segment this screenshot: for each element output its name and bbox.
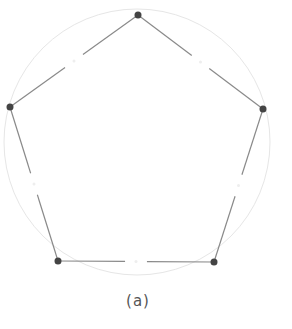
figure-caption: (a) (0, 292, 276, 310)
edge-midpoint-marker (33, 183, 36, 186)
vertex-dot-bottom-left (55, 258, 62, 265)
pentagon-edge (209, 69, 263, 109)
edge-midpoint-marker (237, 184, 240, 187)
pentagon-edge (37, 195, 58, 261)
pentagon-edge (10, 107, 31, 173)
edge-midpoint-marker (199, 61, 202, 64)
vertex-dot-left (7, 104, 14, 111)
pentagon-edge (242, 109, 263, 175)
pentagon-edge (10, 67, 65, 107)
edge-midpoint-marker (135, 260, 138, 263)
vertex-dot-bottom-right (211, 259, 218, 266)
edge-midpoint-marker (73, 60, 76, 63)
vertex-dot-top (135, 12, 142, 19)
vertex-dot-right (260, 106, 267, 113)
pentagon-edge (138, 15, 192, 55)
pentagon-diagram (0, 0, 292, 329)
pentagon-edge (214, 196, 235, 262)
pentagon-edge (83, 15, 138, 55)
circumscribed-circle (4, 9, 270, 275)
